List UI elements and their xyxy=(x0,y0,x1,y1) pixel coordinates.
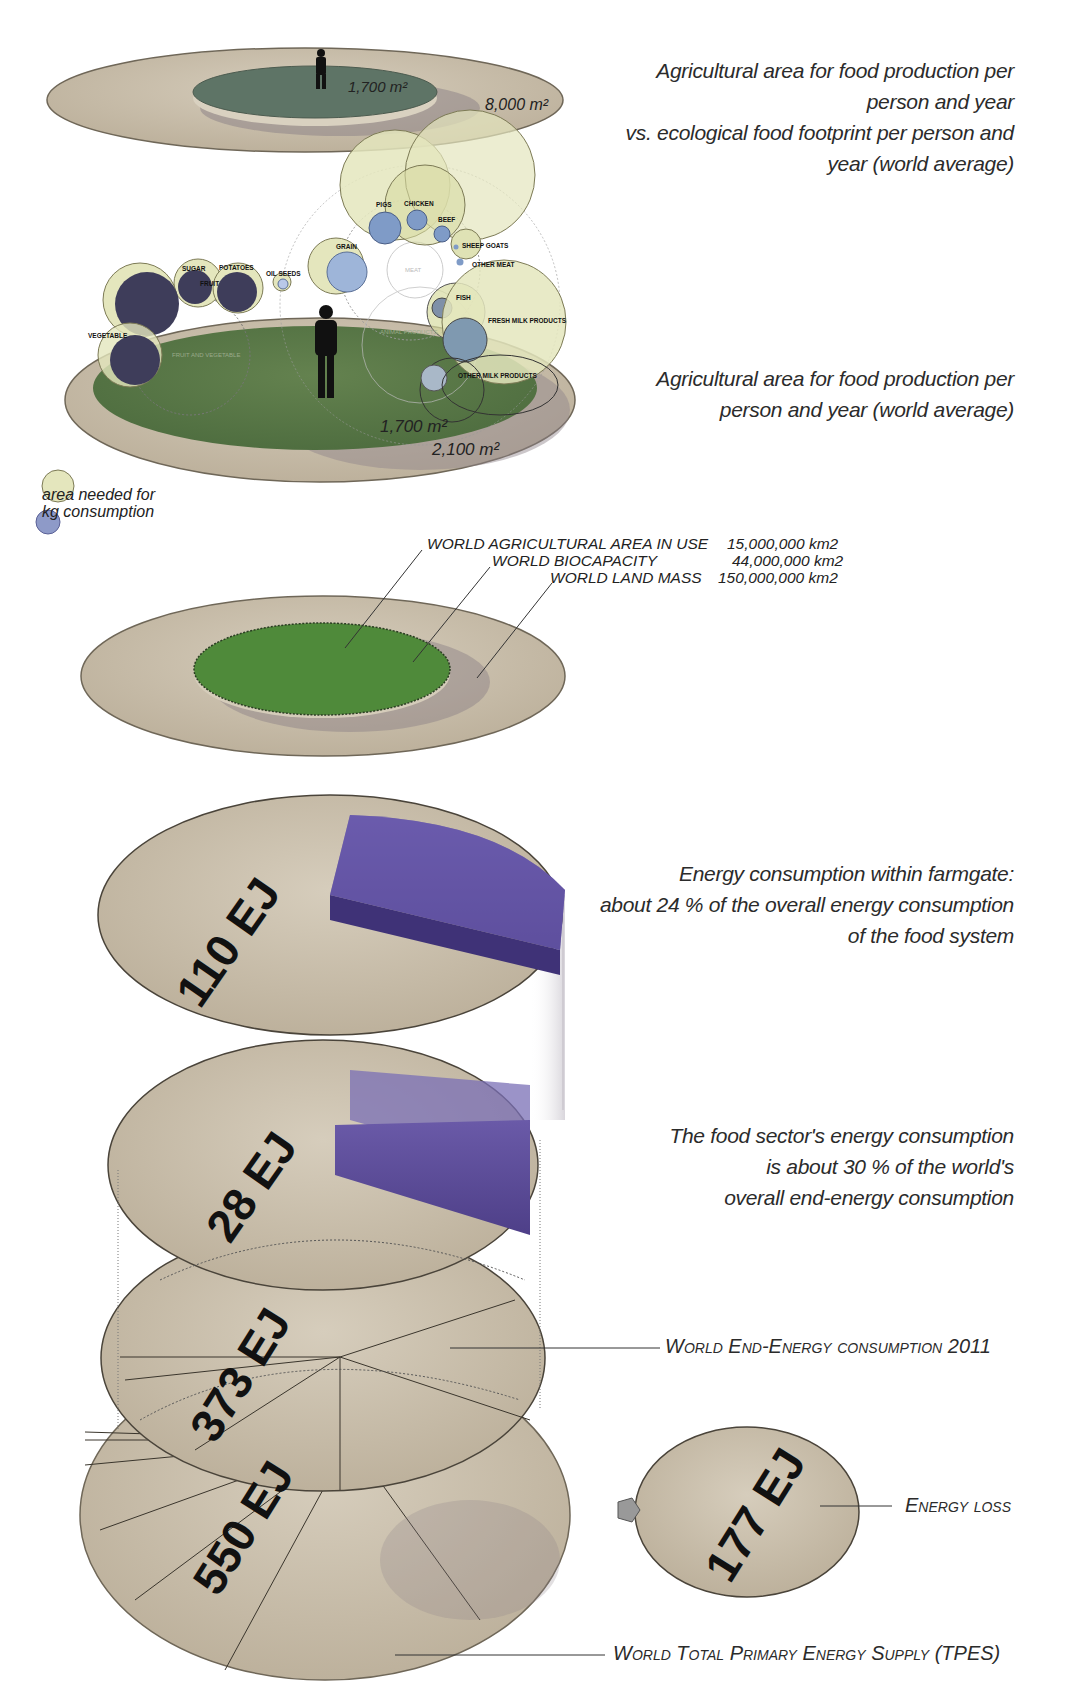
legend-caption: area needed for kg consumption xyxy=(42,486,155,520)
svg-text:SHEEP GOATS: SHEEP GOATS xyxy=(462,242,509,249)
top-outer-area-label: 8,000 m² xyxy=(485,96,549,113)
svg-text:SUGAR: SUGAR xyxy=(182,265,206,272)
svg-text:VEGETABLE: VEGETABLE xyxy=(88,332,128,339)
svg-text:MEAT: MEAT xyxy=(405,267,422,273)
svg-text:OIL SEEDS: OIL SEEDS xyxy=(266,270,301,277)
bottom-agri-caption: Agricultural area for food production pe… xyxy=(554,363,1014,425)
farmgate-caption: Energy consumption within farmgate: abou… xyxy=(544,858,1014,951)
farmgate-disc xyxy=(98,795,565,1035)
stat-land-mass: WORLD LAND MASS xyxy=(550,569,702,586)
svg-text:CHICKEN: CHICKEN xyxy=(404,200,434,207)
energy-loss-label: Energy loss xyxy=(905,1494,1011,1517)
svg-text:OTHER MEAT: OTHER MEAT xyxy=(472,261,515,268)
top-inner-area-label: 1,700 m² xyxy=(348,78,408,95)
infographic-canvas: 1,700 m² 8,000 m² xyxy=(0,0,1086,1682)
svg-text:FISH: FISH xyxy=(456,294,471,301)
svg-text:POTATOES: POTATOES xyxy=(219,264,254,271)
stat-biocapacity: WORLD BIOCAPACITY xyxy=(492,552,657,569)
end-energy-label: World End-Energy consumption 2011 xyxy=(665,1335,991,1358)
svg-text:FRESH MILK PRODUCTS: FRESH MILK PRODUCTS xyxy=(488,317,567,324)
svg-text:BEEF: BEEF xyxy=(438,216,455,223)
stat-land-mass-value: 150,000,000 km2 xyxy=(718,569,838,586)
stat-agricultural-area-value: 15,000,000 km2 xyxy=(727,535,838,552)
bottom-outer-area-label: 2,100 m² xyxy=(431,440,500,459)
svg-text:PIGS: PIGS xyxy=(376,201,392,208)
svg-text:GRAIN: GRAIN xyxy=(336,243,357,250)
bottom-inner-area-label: 1,700 m² xyxy=(380,417,448,436)
stat-biocapacity-value: 44,000,000 km2 xyxy=(732,552,843,569)
top-footprint-caption: Agricultural area for food production pe… xyxy=(554,55,1014,179)
food-sector-caption: The food sector's energy consumption is … xyxy=(544,1120,1014,1213)
world-land-disc xyxy=(81,550,565,756)
tpes-label: World Total Primary Energy Supply (TPES) xyxy=(613,1642,1000,1665)
stat-agricultural-area: WORLD AGRICULTURAL AREA IN USE xyxy=(427,535,708,552)
svg-text:ANIMAL PRODUCTS: ANIMAL PRODUCTS xyxy=(380,329,437,335)
svg-text:FRUIT: FRUIT xyxy=(200,280,219,287)
svg-text:OTHER MILK PRODUCTS: OTHER MILK PRODUCTS xyxy=(458,372,537,379)
svg-text:FRUIT AND VEGETABLE: FRUIT AND VEGETABLE xyxy=(172,352,240,358)
